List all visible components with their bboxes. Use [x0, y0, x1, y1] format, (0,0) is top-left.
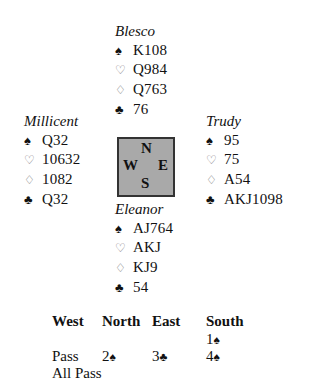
- heart-icon: ♡: [115, 61, 133, 80]
- header-north: North: [102, 311, 152, 331]
- spade-icon: ♠: [24, 131, 42, 150]
- compass-south: S: [141, 175, 149, 192]
- player-name-east: Trudy: [206, 112, 283, 131]
- spade-icon: ♠: [115, 219, 133, 238]
- compass-north: N: [141, 140, 152, 157]
- header-west: West: [52, 311, 102, 331]
- west-hand: Millicent ♠Q32 ♡10632 ♢1082 ♣Q32: [24, 112, 81, 209]
- west-clubs: ♣Q32: [24, 190, 81, 209]
- west-spades: ♠Q32: [24, 131, 81, 150]
- spade-icon: ♠: [214, 333, 220, 347]
- east-clubs: ♣AKJ1098: [206, 190, 283, 209]
- east-diamonds: ♢A54: [206, 170, 283, 190]
- auction-row: Pass 2♠ 3♣ 4♠: [52, 348, 266, 365]
- south-spades: ♠AJ764: [115, 219, 173, 238]
- club-icon: ♣: [115, 278, 133, 297]
- diamond-icon: ♢: [206, 171, 224, 190]
- player-name-south: Eleanor: [115, 200, 173, 219]
- spade-icon: ♠: [206, 131, 224, 150]
- bid: All Pass: [52, 365, 152, 382]
- east-hearts: ♡75: [206, 150, 283, 170]
- south-diamonds: ♢KJ9: [115, 258, 173, 278]
- bid: 2♠: [102, 348, 152, 365]
- header-east: East: [152, 311, 206, 331]
- north-clubs: ♣76: [115, 100, 167, 119]
- west-hearts: ♡10632: [24, 150, 81, 170]
- auction-row: 1♠: [52, 331, 266, 348]
- compass-west: W: [123, 157, 138, 174]
- north-spades: ♠K108: [115, 41, 167, 60]
- club-icon: ♣: [160, 350, 168, 364]
- bid: [52, 331, 102, 348]
- south-hearts: ♡AKJ: [115, 238, 173, 258]
- spade-icon: ♠: [115, 41, 133, 60]
- east-spades: ♠95: [206, 131, 283, 150]
- bid: 1♠: [206, 331, 266, 348]
- auction-header-row: West North East South: [52, 311, 266, 331]
- diamond-icon: ♢: [115, 81, 133, 100]
- club-icon: ♣: [24, 190, 42, 209]
- west-diamonds: ♢1082: [24, 170, 81, 190]
- auction-row: All Pass: [52, 365, 266, 382]
- bid: [152, 331, 206, 348]
- south-clubs: ♣54: [115, 278, 173, 297]
- player-name-north: Blesco: [115, 22, 167, 41]
- spade-icon: ♠: [214, 350, 220, 364]
- header-south: South: [206, 311, 266, 331]
- diamond-icon: ♢: [24, 171, 42, 190]
- spade-icon: ♠: [110, 350, 116, 364]
- compass-box: N W E S: [117, 137, 175, 197]
- bid: Pass: [52, 348, 102, 365]
- north-hearts: ♡Q984: [115, 60, 167, 80]
- heart-icon: ♡: [24, 151, 42, 170]
- bid: 4♠: [206, 348, 266, 365]
- club-icon: ♣: [115, 100, 133, 119]
- diamond-icon: ♢: [115, 259, 133, 278]
- club-icon: ♣: [206, 190, 224, 209]
- bid: 3♣: [152, 348, 206, 365]
- bid: [102, 331, 152, 348]
- auction-table: West North East South 1♠ Pass 2♠ 3♣ 4♠ A…: [52, 311, 266, 382]
- north-hand: Blesco ♠K108 ♡Q984 ♢Q763 ♣76: [115, 22, 167, 119]
- player-name-west: Millicent: [24, 112, 81, 131]
- north-diamonds: ♢Q763: [115, 80, 167, 100]
- heart-icon: ♡: [115, 239, 133, 258]
- compass-east: E: [158, 157, 168, 174]
- south-hand: Eleanor ♠AJ764 ♡AKJ ♢KJ9 ♣54: [115, 200, 173, 297]
- heart-icon: ♡: [206, 151, 224, 170]
- east-hand: Trudy ♠95 ♡75 ♢A54 ♣AKJ1098: [206, 112, 283, 209]
